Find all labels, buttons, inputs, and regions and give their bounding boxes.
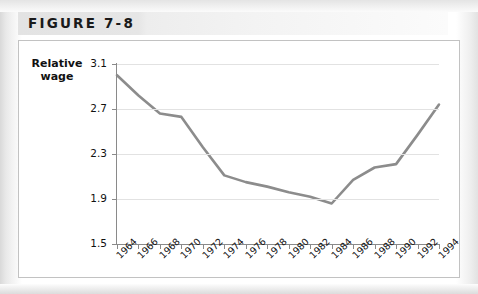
- gridline: [117, 64, 439, 65]
- y-axis-tick: [112, 154, 117, 155]
- page-bottom-edge: [0, 284, 478, 294]
- plot-area: 3.12.72.31.91.51964196619681970197219741…: [117, 64, 439, 244]
- gridline: [117, 199, 439, 200]
- y-axis-tick: [112, 109, 117, 110]
- y-axis-tick-label: 3.1: [77, 57, 107, 69]
- y-axis-title-line2: wage: [26, 70, 88, 83]
- figure-page: FIGURE 7-8 Relative wage 3.12.72.31.91.5…: [0, 0, 478, 294]
- y-axis-tick-label: 1.9: [77, 192, 107, 204]
- y-axis-tick: [112, 64, 117, 65]
- series-line: [117, 75, 439, 203]
- y-axis-tick: [112, 199, 117, 200]
- page-top-edge: [0, 0, 478, 12]
- figure-label: FIGURE 7-8: [28, 15, 135, 31]
- gridline: [117, 154, 439, 155]
- y-axis-tick-label: 2.7: [77, 102, 107, 114]
- y-axis-tick-label: 1.5: [77, 237, 107, 249]
- gridline: [117, 109, 439, 110]
- y-axis-tick-label: 2.3: [77, 147, 107, 159]
